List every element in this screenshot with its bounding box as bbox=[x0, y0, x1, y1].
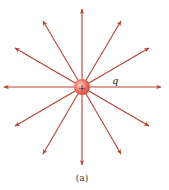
field-line-arrow bbox=[15, 48, 82, 87]
field-line-arrow bbox=[82, 87, 149, 126]
field-line-arrow bbox=[82, 87, 121, 154]
field-line-diagram: + q (a) bbox=[0, 0, 169, 190]
field-line-arrow bbox=[43, 87, 82, 154]
charge-sign: + bbox=[78, 82, 86, 93]
figure-caption: (a) bbox=[76, 173, 88, 183]
field-line-arrow bbox=[43, 21, 82, 87]
charge-label: q bbox=[112, 75, 118, 86]
field-line-arrow bbox=[15, 87, 82, 126]
